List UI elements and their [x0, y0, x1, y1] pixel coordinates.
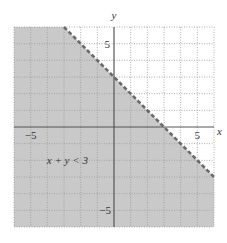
inequality-graph: y x −5 5 5 −5 x + y < 3 — [0, 0, 227, 243]
x-axis-label: x — [216, 125, 222, 137]
y-tick-label-pos5: 5 — [105, 38, 111, 50]
x-tick-label-pos5: 5 — [195, 129, 201, 141]
y-axis-label: y — [111, 9, 117, 21]
x-tick-label-neg5: −5 — [25, 129, 37, 141]
inequality-label: x + y < 3 — [46, 154, 89, 166]
y-tick-label-neg5: −5 — [99, 204, 111, 216]
